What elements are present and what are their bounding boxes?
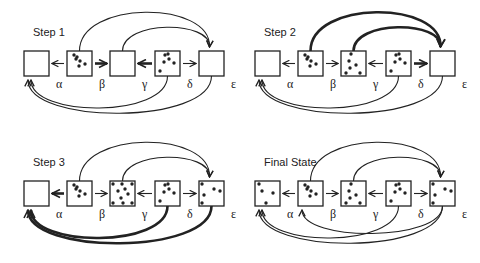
- object-dot: [303, 183, 306, 186]
- object-dot: [443, 187, 446, 190]
- object-dot: [306, 55, 309, 58]
- object-dot: [394, 53, 397, 56]
- object-dot: [393, 60, 396, 63]
- object-dot: [358, 71, 361, 74]
- object-dot: [303, 53, 306, 56]
- memory-cell-alpha: [24, 181, 49, 206]
- cell-label: β: [330, 77, 336, 91]
- object-dot: [403, 61, 406, 64]
- object-dot: [260, 189, 263, 192]
- object-dot: [349, 182, 352, 185]
- memory-cell-beta: [67, 181, 92, 206]
- object-dot: [162, 60, 165, 63]
- pointer-arc-top: [80, 12, 210, 51]
- object-dot: [431, 201, 434, 204]
- cell-label: γ: [372, 77, 379, 91]
- memory-cell-gamma: [110, 181, 135, 206]
- memory-cell-gamma: [341, 51, 366, 76]
- object-dot: [389, 69, 392, 72]
- cell-label: α: [56, 207, 63, 221]
- object-dot: [200, 182, 203, 185]
- object-dot: [158, 69, 161, 72]
- object-dot: [431, 182, 434, 185]
- object-dot: [158, 199, 161, 202]
- object-dot: [111, 182, 114, 185]
- object-dot: [358, 201, 361, 204]
- object-dot: [397, 182, 400, 185]
- object-dot: [166, 52, 169, 55]
- pointer-arc-top: [123, 157, 210, 181]
- object-dot: [393, 190, 396, 193]
- cell-label: γ: [141, 77, 148, 91]
- cell-label: β: [99, 77, 105, 91]
- object-dot: [398, 187, 401, 190]
- memory-cell-delta: [155, 51, 180, 76]
- object-dot: [394, 183, 397, 186]
- panel-final-state: Final Stateαβγδε: [255, 142, 467, 243]
- memory-cell-delta: [386, 181, 411, 206]
- object-dot: [75, 185, 78, 188]
- object-dot: [202, 193, 205, 196]
- cell-label: δ: [187, 207, 193, 221]
- object-dot: [349, 52, 352, 55]
- cell-label: γ: [372, 207, 379, 221]
- object-dot: [120, 182, 123, 185]
- object-dot: [78, 59, 81, 62]
- memory-cell-delta: [155, 181, 180, 206]
- object-dot: [308, 64, 311, 67]
- pointer-arc-top: [311, 142, 441, 181]
- panel-step-3: Step 3αβγδε: [24, 142, 236, 243]
- object-dot: [348, 196, 351, 199]
- object-dot: [218, 189, 221, 192]
- object-dot: [130, 182, 133, 185]
- memory-cell-epsilon: [430, 51, 455, 76]
- object-dot: [403, 191, 406, 194]
- object-dot: [306, 185, 309, 188]
- cell-label: ε: [231, 77, 236, 91]
- memory-cell-beta: [298, 51, 323, 76]
- cell-label: β: [99, 207, 105, 221]
- memory-cell-beta: [67, 51, 92, 76]
- object-dot: [449, 189, 452, 192]
- object-dot: [354, 193, 357, 196]
- object-dot: [166, 182, 169, 185]
- object-dot: [344, 71, 347, 74]
- panel-title: Step 1: [33, 26, 65, 38]
- pointer-arc-top: [123, 27, 210, 51]
- object-dot: [354, 63, 357, 66]
- object-dot: [264, 201, 267, 204]
- object-dot: [119, 196, 122, 199]
- cell-label: ε: [231, 207, 236, 221]
- memory-cell-alpha: [255, 51, 280, 76]
- object-dot: [344, 201, 347, 204]
- memory-cell-epsilon: [199, 51, 224, 76]
- pointer-arc-top: [354, 27, 441, 51]
- object-dot: [116, 189, 119, 192]
- object-dot: [121, 201, 124, 204]
- cell-label: δ: [418, 207, 424, 221]
- object-dot: [123, 187, 126, 190]
- cell-label: ε: [462, 207, 467, 221]
- object-dot: [348, 66, 351, 69]
- panel-step-1: Step 1αβγδε: [24, 12, 236, 113]
- object-dot: [309, 189, 312, 192]
- cell-label: β: [330, 207, 336, 221]
- object-dot: [78, 189, 81, 192]
- object-dot: [77, 64, 80, 67]
- memory-cell-alpha: [24, 51, 49, 76]
- object-dot: [83, 192, 86, 195]
- memory-cell-delta: [386, 51, 411, 76]
- object-dot: [77, 194, 80, 197]
- panel-step-2: Step 2αβγδε: [255, 12, 467, 113]
- memory-cell-alpha: [255, 181, 280, 206]
- object-dot: [389, 199, 392, 202]
- panel-title: Step 3: [33, 156, 65, 168]
- object-dot: [257, 182, 260, 185]
- object-dot: [167, 57, 170, 60]
- panel-title: Step 2: [264, 26, 296, 38]
- cell-label: γ: [141, 207, 148, 221]
- object-dot: [212, 187, 215, 190]
- object-dot: [314, 62, 317, 65]
- pointer-arc-top: [354, 157, 441, 181]
- cell-label: δ: [418, 77, 424, 91]
